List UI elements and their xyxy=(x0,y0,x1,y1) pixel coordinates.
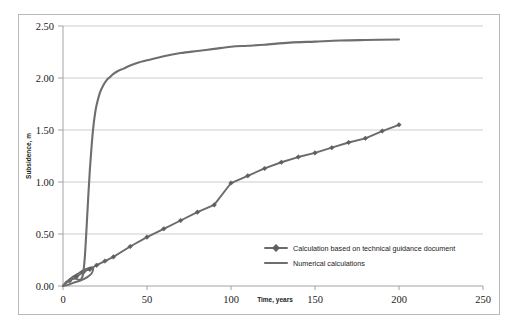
data-point-marker xyxy=(313,151,318,156)
gridlines xyxy=(63,26,483,234)
x-axis-title: Time, years xyxy=(257,296,293,304)
x-tick-marks xyxy=(63,286,483,290)
y-tick-label-0-50: 0.50 xyxy=(36,229,54,240)
chart-plot: 2.50 2.00 1.50 1.00 0.50 0.00 0 50 100 1… xyxy=(0,0,514,333)
y-tick-label-2-00: 2.00 xyxy=(36,73,54,84)
x-tick-label-50: 50 xyxy=(142,294,153,305)
data-point-marker xyxy=(346,140,351,145)
data-point-marker xyxy=(296,155,301,160)
y-tick-label-0-00: 0.00 xyxy=(36,281,54,292)
x-tick-label-250: 250 xyxy=(475,294,491,305)
x-tick-label-100: 100 xyxy=(223,294,239,305)
y-tick-labels: 2.50 2.00 1.50 1.00 0.50 0.00 xyxy=(36,21,54,292)
y-tick-marks xyxy=(58,26,63,286)
legend-label-1: Calculation based on technical guidance … xyxy=(293,244,455,253)
x-tick-label-0: 0 xyxy=(60,294,65,305)
x-tick-label-150: 150 xyxy=(307,294,323,305)
legend-label-2: Numerical calculations xyxy=(293,259,365,268)
x-tick-label-200: 200 xyxy=(391,294,407,305)
y-tick-label-2-50: 2.50 xyxy=(36,21,54,32)
y-tick-label-1-50: 1.50 xyxy=(36,125,54,136)
y-tick-label-1-00: 1.00 xyxy=(36,177,54,188)
chart-legend: Calculation based on technical guidance … xyxy=(258,238,483,272)
chart-container: 2.50 2.00 1.50 1.00 0.50 0.00 0 50 100 1… xyxy=(0,0,514,333)
y-axis-title: Subsidence, m xyxy=(25,133,33,179)
data-point-marker xyxy=(330,145,335,150)
